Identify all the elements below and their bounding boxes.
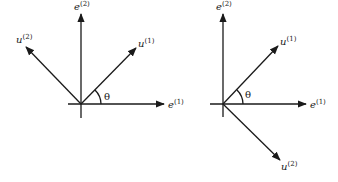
right-theta-label: θ xyxy=(245,89,251,100)
right-theta-arc xyxy=(237,90,243,104)
left-u2-label: u(2) xyxy=(16,33,33,45)
right-u1-label: u(1) xyxy=(280,35,297,47)
left-diagram: e(2) e(1) u(1) u(2) θ xyxy=(16,0,184,118)
left-u1-label: u(1) xyxy=(138,37,155,49)
right-diagram: e(2) e(1) u(1) u(2) θ xyxy=(210,0,326,172)
left-e2-label: e(2) xyxy=(74,0,90,12)
basis-rotation-figure: e(2) e(1) u(1) u(2) θ e(2) e(1) u(1) u(2… xyxy=(0,0,338,182)
right-u2-label: u(2) xyxy=(281,160,298,172)
left-e1-label: e(1) xyxy=(168,98,184,110)
right-e1-label: e(1) xyxy=(310,98,326,110)
right-u2-vector xyxy=(223,104,280,160)
right-e2-label: e(2) xyxy=(216,0,232,12)
left-u2-vector xyxy=(26,47,81,104)
left-theta-arc xyxy=(95,90,101,104)
left-theta-label: θ xyxy=(104,91,110,102)
